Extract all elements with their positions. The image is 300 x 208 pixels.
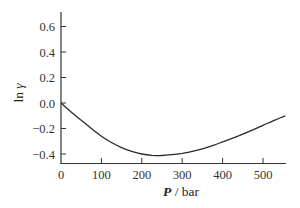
y-tick-label: −0.4	[32, 148, 55, 162]
x-tick-label: 400	[213, 168, 232, 182]
x-ticks: 0100200300400500	[58, 158, 273, 182]
y-tick-label: 0.2	[39, 71, 55, 85]
data-line	[61, 103, 285, 156]
y-tick-label: −0.2	[32, 122, 55, 136]
x-axis-label: P / bar	[163, 184, 199, 199]
x-tick-label: 200	[132, 168, 151, 182]
y-axis-label: ln γ	[11, 83, 26, 103]
y-tick-label: 0.4	[39, 46, 55, 60]
x-tick-label: 0	[58, 168, 64, 182]
chart: −0.4−0.20.00.20.40.6 0100200300400500 ln…	[0, 0, 300, 208]
y-tick-label: 0.0	[39, 97, 55, 111]
y-tick-label: 0.6	[39, 20, 55, 34]
x-tick-label: 100	[92, 168, 111, 182]
axes	[61, 12, 287, 164]
x-tick-label: 500	[254, 168, 273, 182]
x-tick-label: 300	[173, 168, 192, 182]
